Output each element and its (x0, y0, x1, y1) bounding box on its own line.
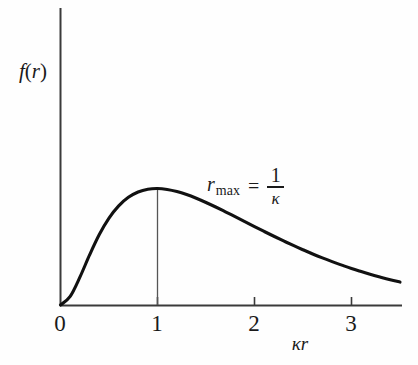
x-tick-label-1: 1 (151, 312, 163, 335)
annotation-symbol-group: rmax (207, 174, 240, 198)
annotation-r-symbol: r (207, 173, 215, 195)
y-axis-label-r: r (32, 59, 40, 83)
r-max-annotation: rmax = 1 κ (207, 166, 284, 207)
fraction-numerator: 1 (268, 165, 284, 186)
y-axis-label-close-paren: ) (40, 59, 47, 83)
y-axis-label: f(r) (19, 61, 47, 82)
annotation-equals: = (248, 176, 259, 196)
annotation-subscript: max (216, 184, 240, 198)
y-axis-label-open-paren: ( (25, 59, 32, 83)
fraction-denominator: κ (269, 188, 283, 207)
figure-container: f(r) 0 1 2 3 κr rmax = 1 κ (0, 0, 418, 365)
x-tick-label-2: 2 (248, 312, 260, 335)
x-tick-label-0: 0 (54, 312, 66, 335)
x-axis-label-kappa: κ (292, 333, 301, 354)
x-tick-label-3: 3 (345, 312, 357, 335)
x-axis-label: κr (292, 334, 309, 353)
annotation-fraction: 1 κ (267, 165, 284, 207)
x-axis-label-r: r (301, 333, 308, 354)
